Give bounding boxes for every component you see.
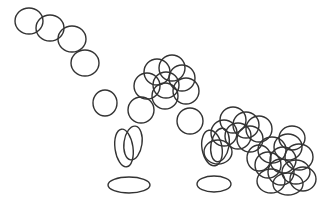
ellipse-sketch-svg [0, 0, 323, 204]
sketch-canvas [0, 0, 323, 204]
canvas-background [0, 0, 323, 204]
